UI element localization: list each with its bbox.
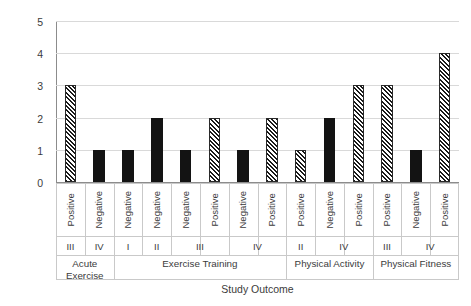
y-axis-tick-label: 1 [21, 146, 43, 157]
row-divider [56, 279, 459, 280]
outcome-label: Positive [267, 193, 277, 226]
outcome-label: Positive [353, 193, 363, 226]
group-separator [373, 255, 374, 280]
outcome-label: Negative [94, 191, 104, 229]
outcome-label: Negative [325, 191, 335, 229]
roman-numeral-cell: III [171, 237, 229, 255]
roman-numeral-cell: III [56, 237, 85, 255]
x-axis-title: Study Outcome [56, 283, 459, 295]
roman-numeral-cell: II [286, 237, 315, 255]
bar [151, 118, 163, 182]
outcome-label: Negative [152, 191, 162, 229]
outcome-label: Negative [238, 191, 248, 229]
y-axis-tick-label: 5 [21, 17, 43, 28]
outcome-cell: Negative [315, 185, 344, 235]
group-cell: Acute Exercise [56, 256, 114, 280]
outcome-label: Positive [382, 193, 392, 226]
outcome-cell: Negative [401, 185, 430, 235]
outcome-cell: Positive [430, 185, 459, 235]
y-axis-tick-labels: 012345 [10, 0, 43, 306]
outcome-cell: Negative [171, 185, 200, 235]
roman-numeral-cell: IV [85, 237, 114, 255]
outcome-label: Positive [210, 193, 220, 226]
table-left-border [56, 183, 57, 280]
outcome-label: Negative [411, 191, 421, 229]
plot-area [56, 22, 459, 183]
outcome-cell: Negative [229, 185, 258, 235]
roman-numeral-cell: II [142, 237, 171, 255]
y-axis-tick-label: 4 [21, 49, 43, 60]
y-axis-tick-label: 2 [21, 113, 43, 124]
roman-numeral-cell: IV [229, 237, 287, 255]
bar [353, 85, 365, 182]
outcome-cell: Negative [114, 185, 143, 235]
bar [180, 150, 192, 182]
outcome-label: Positive [440, 193, 450, 226]
outcome-cell: Positive [56, 185, 85, 235]
group-separator [114, 255, 115, 280]
roman-numeral-cell: I [114, 237, 143, 255]
roman-numeral-cell: IV [401, 237, 459, 255]
outcome-label: Negative [123, 191, 133, 229]
outcome-cell: Positive [258, 185, 287, 235]
outcome-cell: Positive [286, 185, 315, 235]
bar-chart: Number of Studies 012345 PositiveNegativ… [0, 0, 471, 306]
x-axis-label-table: PositiveNegativeNegativeNegativeNegative… [56, 183, 459, 280]
bar [65, 85, 77, 182]
table-right-border [458, 183, 459, 280]
bar [295, 150, 307, 182]
outcome-cell: Negative [85, 185, 114, 235]
outcome-cell: Positive [373, 185, 402, 235]
bars-layer [56, 22, 459, 183]
bar [93, 150, 105, 182]
bar [439, 53, 451, 182]
outcome-cell: Positive [344, 185, 373, 235]
bar [266, 118, 278, 182]
group-cell: Physical Activity [286, 256, 372, 280]
group-cell: Physical Fitness [373, 256, 459, 280]
x-axis-title-label: Study Outcome [221, 283, 293, 295]
outcome-label: Negative [181, 191, 191, 229]
roman-numeral-cell: IV [315, 237, 373, 255]
bar [209, 118, 221, 182]
group-cell: Exercise Training [114, 256, 287, 280]
bar [237, 150, 249, 182]
bar [381, 85, 393, 182]
outcome-label: Positive [66, 193, 76, 226]
y-axis-tick-label: 0 [21, 178, 43, 189]
y-axis-tick-label: 3 [21, 81, 43, 92]
roman-numeral-cell: III [373, 237, 402, 255]
bar [122, 150, 134, 182]
outcome-cell: Negative [142, 185, 171, 235]
bar [324, 118, 336, 182]
outcome-label: Positive [296, 193, 306, 226]
bar [410, 150, 422, 182]
outcome-cell: Positive [200, 185, 229, 235]
group-separator [286, 255, 287, 280]
